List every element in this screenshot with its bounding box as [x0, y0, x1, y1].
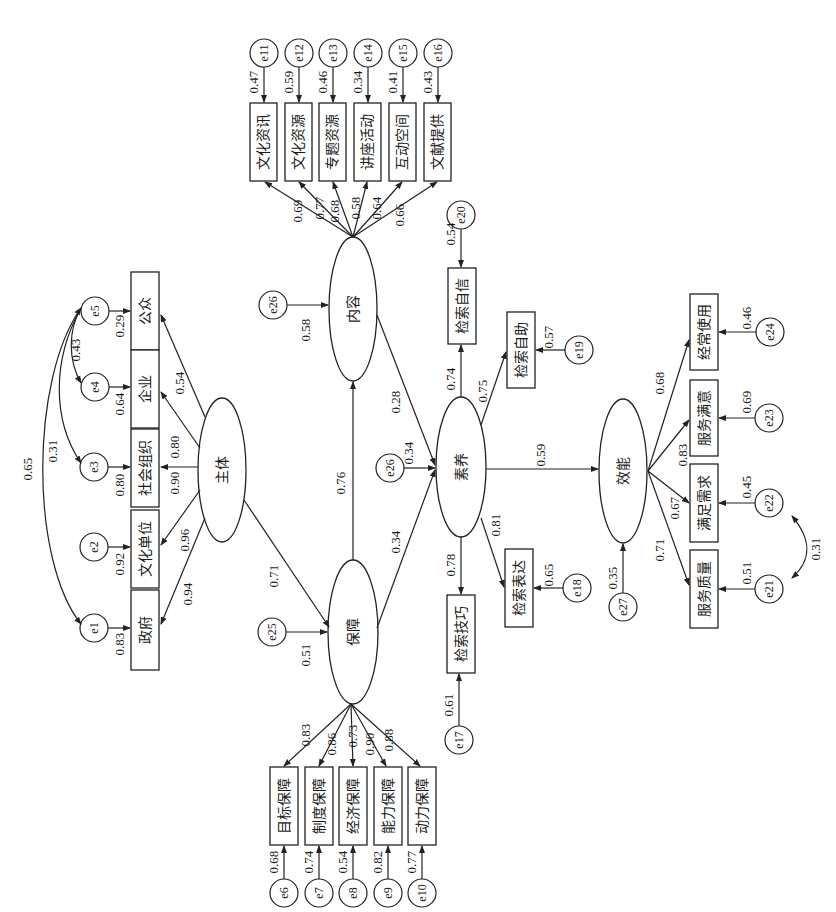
error-label: e8 [346, 887, 360, 898]
loading-value: 0.94 [180, 582, 195, 605]
indicator-label: 互动空间 [395, 114, 410, 170]
path-coefficient: 0.34 [388, 530, 403, 553]
error-variance: 0.54 [335, 850, 350, 873]
error-label: e1 [87, 622, 101, 633]
error-label: e26 [383, 459, 397, 476]
error-variance: 0.35 [605, 567, 620, 590]
error-variance: 0.92 [112, 553, 127, 576]
indicator-label: 制度保障 [312, 778, 327, 834]
error-variance: 0.54 [443, 222, 458, 245]
latent-label: 效能 [616, 457, 631, 485]
path-coefficient: 0.59 [533, 444, 548, 467]
loading-value: 0.86 [324, 732, 339, 755]
error-variance: 0.64 [112, 392, 127, 415]
error-label: e20 [454, 206, 468, 223]
indicator-label: 文化单位 [138, 521, 153, 577]
error-label: e4 [88, 381, 102, 392]
covariance-value: 0.65 [20, 458, 35, 481]
indicator-label: 检索表达 [511, 560, 527, 616]
loading-value: 0.90 [167, 472, 182, 495]
indicator-label: 文化资讯 [256, 114, 271, 170]
latent-label: 素养 [454, 453, 469, 481]
error-variance: 0.34 [401, 441, 416, 464]
indicator-label: 动力保障 [415, 778, 430, 834]
covariance-value: 0.31 [45, 440, 60, 463]
error-label: e18 [570, 579, 584, 596]
indicator-label: 检索自信 [454, 278, 470, 334]
error-label: e17 [452, 731, 466, 748]
error-variance: 0.43 [420, 71, 435, 94]
indicator-label: 公众 [138, 297, 153, 325]
error-label: e7 [312, 887, 326, 898]
loading-value: 0.69 [290, 200, 305, 223]
error-variance: 0.47 [246, 70, 261, 93]
error-label: e15 [396, 44, 410, 61]
error-label: e11 [257, 45, 271, 62]
error-variance: 0.61 [441, 694, 456, 717]
loading-value: 0.66 [392, 203, 407, 226]
latent-label: 保障 [346, 618, 361, 646]
error-variance: 0.58 [298, 319, 313, 342]
error-variance: 0.46 [739, 306, 754, 329]
covariance-value: 0.31 [808, 538, 823, 561]
indicator-label: 政府 [138, 616, 153, 644]
loading-value: 0.58 [348, 197, 363, 220]
error-label: e22 [762, 494, 776, 511]
indicator-label: 企业 [137, 375, 153, 403]
indicator-label: 文献提供 [430, 114, 445, 170]
error-variance: 0.29 [112, 315, 127, 338]
error-variance: 0.82 [370, 851, 385, 874]
loading-value: 0.68 [327, 200, 342, 223]
indicator-label: 社会组织 [138, 440, 153, 496]
loading-value: 0.77 [312, 196, 327, 219]
indicator-label: 讲座活动 [360, 114, 375, 170]
error-label: e16 [431, 44, 445, 61]
loading-value: 0.78 [443, 554, 458, 577]
indicator-label: 检索技巧 [453, 606, 469, 662]
indicator-label: 目标保障 [277, 778, 292, 834]
loading-value: 0.73 [345, 725, 360, 748]
xiaoneng-group: 效能 经常使用 服务满意 满足需求 服务质量 0.68 0.83 0.67 0.… [599, 294, 823, 628]
path-coefficient: 0.76 [333, 471, 348, 494]
error-label: e2 [87, 541, 101, 552]
loading-value: 0.68 [652, 372, 667, 395]
path-coefficient: 0.28 [388, 391, 403, 414]
loading-value: 0.80 [167, 436, 182, 459]
indicator-label: 服务质量 [697, 561, 712, 617]
error-label: e26 [266, 296, 280, 313]
loading-value: 0.83 [298, 724, 313, 747]
error-label: e21 [762, 580, 776, 597]
indicator-label: 文化资源 [291, 114, 306, 170]
error-variance: 0.34 [350, 70, 365, 93]
error-variance: 0.80 [112, 474, 127, 497]
error-variance: 0.46 [315, 70, 330, 93]
loading-value: 0.81 [488, 514, 503, 537]
error-variance: 0.59 [281, 71, 296, 94]
error-label: e25 [265, 623, 279, 640]
error-label: e5 [88, 305, 102, 316]
loading-value: 0.96 [177, 528, 192, 551]
error-label: e10 [415, 884, 429, 901]
error-label: e6 [277, 887, 291, 898]
indicator-label: 经常使用 [696, 304, 712, 360]
path-coefficient: 0.71 [266, 565, 281, 588]
covariance-value: 0.43 [68, 339, 83, 362]
latent-label: 内容 [345, 295, 361, 323]
loading-value: 0.71 [652, 539, 667, 562]
loading-value: 0.64 [369, 196, 384, 219]
error-label: e27 [616, 598, 630, 615]
error-label: e9 [381, 887, 395, 898]
error-label: e24 [763, 323, 777, 340]
zhuti-group: 公众 企业 社会组织 文化单位 政府 e5 e4 e3 e2 e1 0.29 0… [20, 272, 246, 670]
error-label: e19 [572, 341, 586, 358]
error-variance: 0.41 [385, 71, 400, 94]
error-variance: 0.51 [298, 644, 313, 667]
suyang-group: 素养 检索自信 0.74 e20 0.54 检索自助 0.75 e19 0.57… [376, 201, 593, 754]
indicator-label: 检索自助 [513, 322, 529, 378]
baozhang-group: 保障 e25 0.51 目标保障 制度保障 经济保障 能力保障 动力保障 0.8… [258, 560, 436, 907]
neirong-group: 文化资讯 文化资源 专题资源 讲座活动 互动空间 文献提供 e11 e12 e1… [246, 39, 452, 381]
sem-diagram: 公众 企业 社会组织 文化单位 政府 e5 e4 e3 e2 e1 0.29 0… [0, 0, 836, 912]
error-variance: 0.77 [404, 850, 419, 873]
indicator-label: 能力保障 [381, 778, 396, 834]
latent-label: 主体 [215, 456, 230, 484]
